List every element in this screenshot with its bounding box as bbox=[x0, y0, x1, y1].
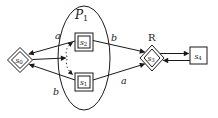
edge-s1-to-s3 bbox=[93, 64, 145, 80]
edge-s2-to-s0 bbox=[29, 41, 75, 54]
edge-label-s1-s3: a bbox=[121, 75, 127, 86]
automaton-diagram: s0 s2 s1 s3 R s4 P1 a b b a bbox=[0, 0, 218, 118]
annotation-r-label: R bbox=[148, 32, 156, 43]
state-s3-sub: 3 bbox=[151, 57, 155, 63]
state-s1-sub: 1 bbox=[84, 81, 88, 87]
state-s2-sub: 2 bbox=[84, 41, 88, 47]
module-p1-sub: 1 bbox=[83, 14, 88, 23]
edge-s1-to-s0 bbox=[30, 65, 76, 81]
edge-label-s2-s0: a bbox=[55, 30, 61, 41]
edge-s0-to-module-entry bbox=[33, 58, 66, 60]
dotted-entry-to-s2 bbox=[66, 43, 72, 58]
state-s4: s4 bbox=[190, 47, 207, 64]
edge-label-s1-s0: b bbox=[53, 86, 59, 97]
edge-s2-to-s3 bbox=[93, 41, 145, 53]
automaton-figure: s0 s2 s1 s3 R s4 P1 a b b a bbox=[0, 0, 218, 118]
state-s3: s3 bbox=[140, 45, 164, 71]
state-s2: s2 bbox=[75, 33, 93, 51]
module-p1-label: P1 bbox=[74, 8, 88, 23]
state-s1: s1 bbox=[75, 73, 93, 91]
edge-label-s2-s3: b bbox=[111, 32, 117, 43]
state-s0-sub: 0 bbox=[19, 59, 23, 65]
state-s0: s0 bbox=[8, 48, 33, 73]
state-s4-sub: 4 bbox=[198, 55, 202, 61]
dotted-entry-to-s1 bbox=[66, 59, 72, 75]
